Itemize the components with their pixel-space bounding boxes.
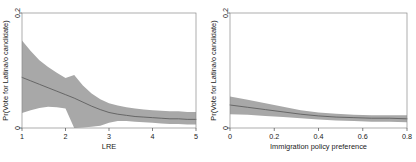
figure-canvas: 1234500.2LREPr(Vote for Latina/o candida… [0,0,416,162]
y-tick-label: 0 [13,126,22,130]
y-axis-title: Pr(Vote for Latina/o candidate) [209,20,218,120]
plot-area-right: 00.20.40.60.800.2Immigration policy pref… [208,0,416,162]
y-tick-label: 0 [221,126,230,130]
x-tick-label: 4 [151,132,155,141]
x-tick-label: 0.8 [402,132,412,141]
x-tick-label: 0.2 [269,132,279,141]
x-tick-label: 0.6 [358,132,368,141]
confidence-band [22,41,196,128]
x-tick-label: 0.4 [314,132,324,141]
x-tick-label: 1 [20,132,24,141]
x-tick-label: 2 [64,132,68,141]
chart-panel-left: 1234500.2LREPr(Vote for Latina/o candida… [0,0,208,162]
y-tick-label: 0.2 [221,8,230,18]
x-axis-title: Immigration policy preference [270,142,367,151]
x-tick-label: 0 [228,132,232,141]
x-tick-label: 5 [194,132,198,141]
plot-area-left: 1234500.2LREPr(Vote for Latina/o candida… [0,0,208,162]
x-tick-label: 3 [107,132,111,141]
chart-panel-right: 00.20.40.60.800.2Immigration policy pref… [208,0,416,162]
x-axis-title: LRE [102,142,116,151]
y-axis-title: Pr(Vote for Latina/o candidate) [1,20,10,120]
y-tick-label: 0.2 [13,8,22,18]
